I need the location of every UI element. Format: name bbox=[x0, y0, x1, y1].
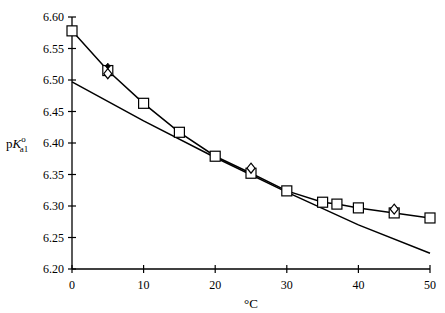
y-tick-label: 6.30 bbox=[43, 199, 64, 213]
plot-area bbox=[67, 26, 435, 253]
x-tick-label: 20 bbox=[209, 278, 221, 292]
data-line bbox=[72, 31, 430, 218]
y-tick-label: 6.50 bbox=[43, 73, 64, 87]
x-axis-label: °C bbox=[244, 296, 258, 311]
y-tick-label: 6.45 bbox=[43, 105, 64, 119]
x-tick-label: 40 bbox=[352, 278, 364, 292]
square-marker bbox=[353, 203, 363, 213]
square-marker bbox=[67, 26, 77, 36]
y-tick-label: 6.60 bbox=[43, 10, 64, 24]
square-marker bbox=[318, 197, 328, 207]
y-axis-label: pKoa1 bbox=[6, 134, 28, 154]
y-tick-label: 6.25 bbox=[43, 231, 64, 245]
axes: 010203040506.206.256.306.356.406.456.506… bbox=[43, 10, 436, 292]
y-tick-label: 6.35 bbox=[43, 168, 64, 182]
square-marker bbox=[282, 186, 292, 196]
square-marker bbox=[425, 213, 435, 223]
x-tick-label: 50 bbox=[424, 278, 436, 292]
square-marker bbox=[210, 151, 220, 161]
x-tick-label: 10 bbox=[138, 278, 150, 292]
y-tick-label: 6.40 bbox=[43, 136, 64, 150]
square-marker bbox=[174, 127, 184, 137]
x-tick-label: 30 bbox=[281, 278, 293, 292]
square-marker bbox=[139, 98, 149, 108]
x-tick-label: 0 bbox=[69, 278, 75, 292]
square-marker bbox=[332, 199, 342, 209]
chart: 010203040506.206.256.306.356.406.456.506… bbox=[0, 0, 445, 313]
y-tick-label: 6.20 bbox=[43, 262, 64, 276]
y-tick-label: 6.55 bbox=[43, 42, 64, 56]
